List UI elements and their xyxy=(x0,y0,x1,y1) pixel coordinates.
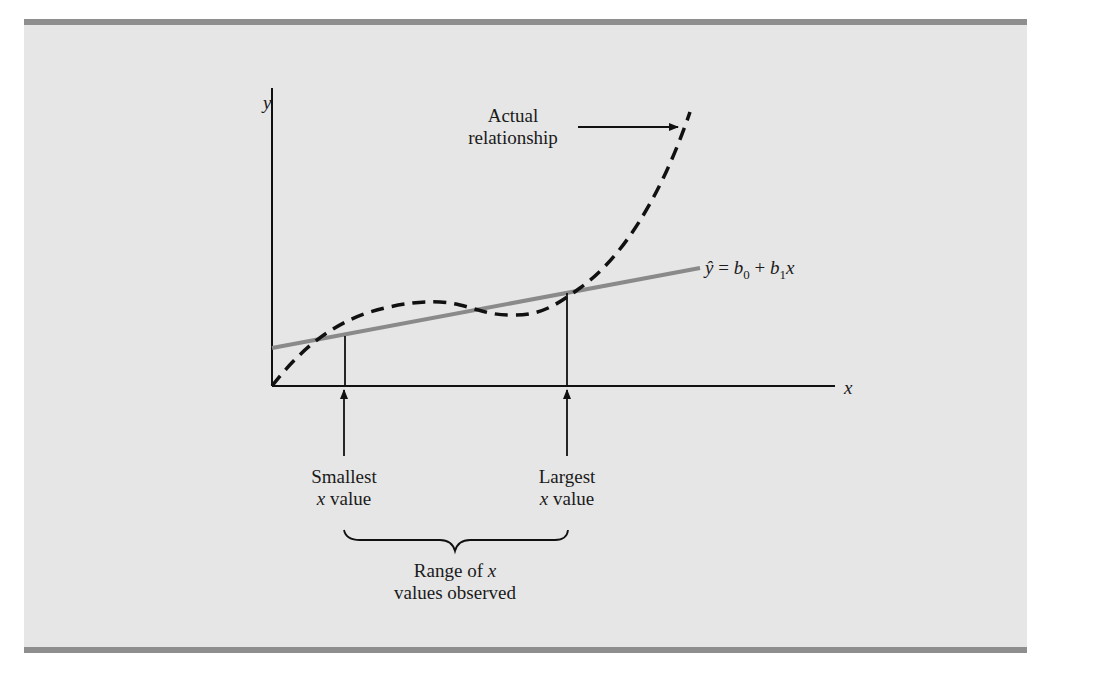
range-line2: values observed xyxy=(380,582,530,604)
regression-extrapolation-diagram xyxy=(0,0,1120,676)
x: x xyxy=(786,257,794,278)
plus: + xyxy=(750,257,770,278)
range-brace xyxy=(344,530,568,551)
equals: = xyxy=(713,257,733,278)
range-line1: Range of xyxy=(414,560,488,581)
smallest-x: x xyxy=(317,488,325,509)
b0: b xyxy=(734,257,744,278)
largest-x-label: Largest x value xyxy=(517,466,617,510)
range-label: Range of x values observed xyxy=(380,560,530,604)
regression-equation: ŷ = b0 + b1x xyxy=(705,257,794,286)
actual-line2: relationship xyxy=(448,127,578,149)
smallest-value: value xyxy=(325,488,371,509)
largest-value: value xyxy=(548,488,594,509)
largest-line1: Largest xyxy=(517,466,617,488)
regression-line xyxy=(272,268,700,348)
y-axis-label: y xyxy=(263,92,271,114)
range-x: x xyxy=(488,560,496,581)
actual-line1: Actual xyxy=(448,105,578,127)
smallest-x-label: Smallest x value xyxy=(294,466,394,510)
actual-relationship-curve xyxy=(272,112,690,386)
b1: b xyxy=(770,257,780,278)
largest-x: x xyxy=(540,488,548,509)
actual-relationship-label: Actual relationship xyxy=(448,105,578,149)
x-axis-label: x xyxy=(844,377,852,399)
smallest-line1: Smallest xyxy=(294,466,394,488)
